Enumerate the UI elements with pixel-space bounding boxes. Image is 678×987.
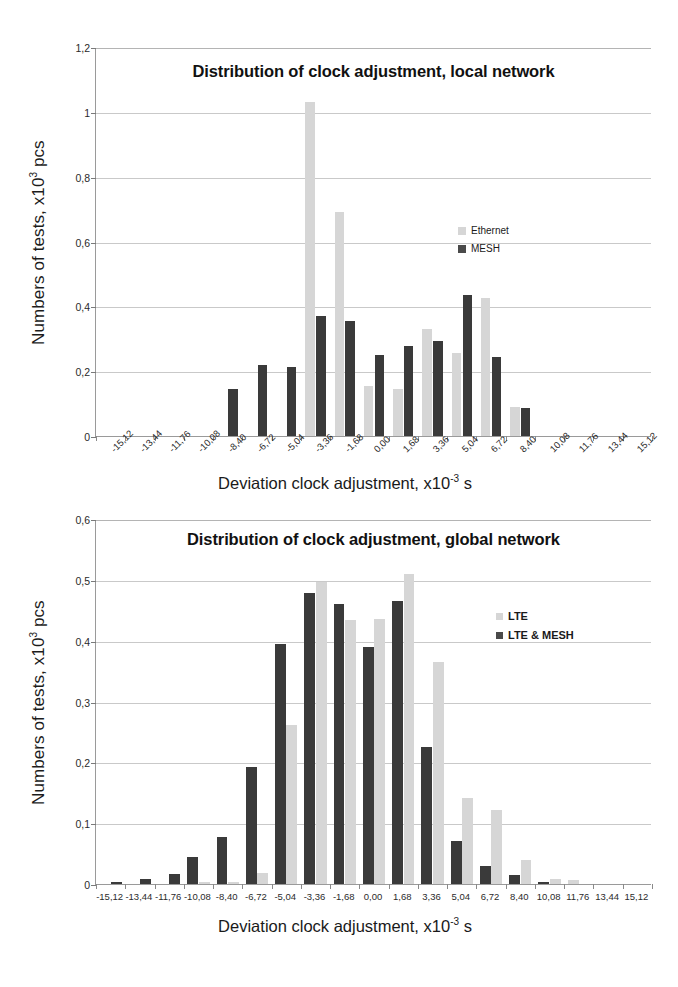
bar-group <box>96 520 125 884</box>
x-tick-mark <box>593 884 594 889</box>
bar-lte-mesh <box>392 601 403 884</box>
chart-local-network: Numbers of tests, x103 pcs 00,20,40,60,8… <box>0 18 678 508</box>
x-tick-mark <box>155 884 156 889</box>
bar-lte-mesh <box>217 837 228 884</box>
chart1-plot-area: 00,20,40,60,811,2 Distribution of clock … <box>95 48 651 437</box>
bar-group <box>96 48 125 436</box>
chart1-x-axis-title: Deviation clock adjustment, x10-3 s <box>95 473 595 493</box>
x-tick-mark <box>213 884 214 889</box>
bar-group <box>389 48 418 436</box>
y-tick-label: 0,2 <box>75 757 90 769</box>
bar-ethernet <box>481 298 490 436</box>
bar-mesh <box>258 365 267 436</box>
y-tick-label: 0,6 <box>75 514 90 526</box>
x-tick-label: -1,68 <box>333 891 355 902</box>
bar-lte-mesh <box>334 604 345 884</box>
bar-group <box>125 48 154 436</box>
x-tick-label: 0,00 <box>364 891 383 902</box>
legend-swatch-icon <box>458 227 466 235</box>
bar-mesh <box>345 321 354 436</box>
chart2-y-axis-title: Numbers of tests, x103 pcs <box>28 600 49 805</box>
y-tick-label: 0 <box>84 879 90 891</box>
bar-group <box>623 48 652 436</box>
bar-lte <box>521 860 532 884</box>
x-tick-mark <box>418 884 419 889</box>
y-tick-label: 0,4 <box>75 301 90 313</box>
x-tick-mark <box>389 884 390 889</box>
bar-group <box>447 520 476 884</box>
legend-swatch-icon <box>496 613 503 620</box>
x-tick-mark <box>447 884 448 889</box>
bar-ethernet <box>335 212 344 436</box>
bar-mesh <box>375 355 384 436</box>
x-tick-mark <box>96 884 97 889</box>
x-tick-label: 11,76 <box>566 891 589 902</box>
bar-lte-mesh <box>363 647 374 884</box>
y-tick-label: 0,4 <box>75 636 90 648</box>
bar-lte <box>404 574 415 884</box>
bar-ethernet <box>393 389 402 436</box>
x-tick-mark <box>359 884 360 889</box>
chart-global-network: Numbers of tests, x103 pcs 00,10,20,30,4… <box>0 508 678 987</box>
bar-ethernet <box>364 386 373 436</box>
legend-label: LTE <box>508 610 528 622</box>
legend-item: LTE & MESH <box>496 629 574 641</box>
bar-lte-mesh <box>275 644 286 884</box>
x-tick-label: -5,04 <box>274 891 296 902</box>
bar-mesh <box>433 341 442 436</box>
x-tick-label: -3,36 <box>304 891 326 902</box>
y-tick-label: 1 <box>84 107 90 119</box>
x-tick-mark <box>184 884 185 889</box>
chart1-bars <box>96 48 651 436</box>
x-tick-mark <box>125 884 126 889</box>
bar-group <box>564 48 593 436</box>
bar-group <box>242 48 271 436</box>
bar-group <box>301 520 330 884</box>
bar-lte-mesh <box>451 841 462 884</box>
bar-mesh <box>228 389 237 436</box>
bar-lte <box>433 662 444 884</box>
figure-page: Numbers of tests, x103 pcs 00,20,40,60,8… <box>0 0 678 987</box>
x-tick-label: 15,12 <box>624 891 648 902</box>
x-tick-mark <box>330 884 331 889</box>
x-tick-label: 8,40 <box>510 891 529 902</box>
bar-group <box>506 520 535 884</box>
legend-swatch-icon <box>496 632 503 639</box>
bar-ethernet <box>305 102 314 436</box>
y-tick-label: 0,5 <box>75 575 90 587</box>
x-tick-mark <box>535 884 536 889</box>
x-tick-label: 3,36 <box>422 891 441 902</box>
chart2-x-ticks <box>96 884 651 890</box>
x-tick-mark <box>506 884 507 889</box>
chart1-legend: EthernetMESH <box>458 225 509 261</box>
legend-swatch-icon <box>458 245 466 253</box>
x-tick-label: 10,08 <box>537 891 561 902</box>
x-tick-label: -10,08 <box>184 891 211 902</box>
legend-label: LTE & MESH <box>508 629 574 641</box>
bar-lte <box>491 810 502 884</box>
bar-lte-mesh <box>169 874 180 884</box>
chart2-title: Distribution of clock adjustment, global… <box>96 530 651 549</box>
x-tick-label: 1,68 <box>393 891 412 902</box>
bar-lte <box>345 620 356 884</box>
y-tick-label: 0,3 <box>75 697 90 709</box>
x-tick-label: -15,12 <box>96 891 123 902</box>
bar-group <box>330 48 359 436</box>
x-tick-label: -13,44 <box>125 891 152 902</box>
bar-lte <box>286 725 297 884</box>
bar-mesh <box>287 367 296 436</box>
bar-group <box>359 48 388 436</box>
chart2-legend: LTELTE & MESH <box>496 610 574 648</box>
chart2-x-axis-title: Deviation clock adjustment, x10-3 s <box>95 916 595 936</box>
bar-mesh <box>521 408 530 436</box>
bar-lte-mesh <box>421 747 432 884</box>
bar-group <box>272 48 301 436</box>
y-tick-label: 1,2 <box>75 42 90 54</box>
bar-lte-mesh <box>304 593 315 884</box>
bar-lte <box>462 798 473 884</box>
x-tick-label: 5,04 <box>452 891 471 902</box>
bar-group <box>418 520 447 884</box>
bar-mesh <box>316 316 325 436</box>
bar-group <box>330 520 359 884</box>
bar-mesh <box>463 295 472 436</box>
